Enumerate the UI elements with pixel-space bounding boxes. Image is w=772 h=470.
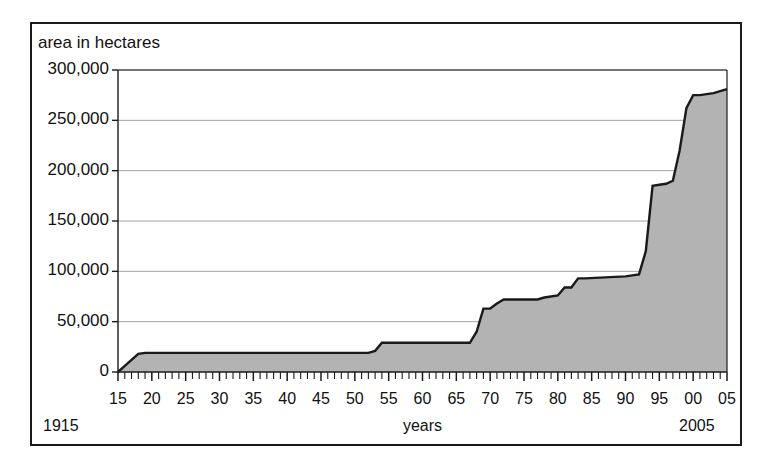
y-tick-label: 150,000 (17, 210, 109, 230)
x-tick-label: 95 (642, 390, 676, 408)
x-tick-label: 65 (439, 390, 473, 408)
y-tick-label: 300,000 (17, 59, 109, 79)
y-tick-label: 0 (17, 361, 109, 381)
y-tick-label: 200,000 (17, 160, 109, 180)
x-tick-label: 15 (101, 390, 135, 408)
x-tick-label: 85 (575, 390, 609, 408)
y-tick-label: 50,000 (17, 311, 109, 331)
x-axis-start-annotation: 1915 (43, 417, 79, 435)
x-tick-label: 55 (372, 390, 406, 408)
x-tick-label: 25 (169, 390, 203, 408)
x-tick-label: 90 (609, 390, 643, 408)
x-tick-label: 60 (406, 390, 440, 408)
x-tick-label: 50 (338, 390, 372, 408)
x-tick-label: 45 (304, 390, 338, 408)
x-tick-label: 00 (676, 390, 710, 408)
chart-figure: area in hectares 050,000100,000150,00020… (0, 0, 772, 470)
x-tick-label: 05 (710, 390, 744, 408)
x-tick-label: 70 (473, 390, 507, 408)
y-tick-label: 250,000 (17, 109, 109, 129)
x-axis-title: years (363, 417, 483, 435)
x-axis-end-annotation: 2005 (679, 417, 715, 435)
x-tick-label: 75 (507, 390, 541, 408)
area-series (118, 89, 727, 372)
x-tick-label: 35 (236, 390, 270, 408)
x-tick-label: 40 (270, 390, 304, 408)
minor-tick-marks (118, 372, 727, 381)
x-tick-label: 80 (541, 390, 575, 408)
x-tick-label: 30 (203, 390, 237, 408)
x-tick-label: 20 (135, 390, 169, 408)
major-tick-marks (112, 70, 118, 372)
y-tick-label: 100,000 (17, 260, 109, 280)
